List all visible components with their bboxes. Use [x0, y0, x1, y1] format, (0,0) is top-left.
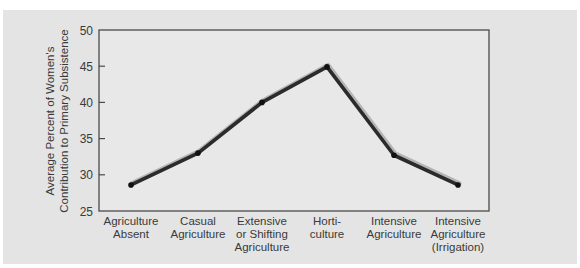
y-tick-label: 40 [80, 96, 94, 110]
x-category-label: Agriculture [367, 228, 422, 240]
data-point [324, 64, 330, 70]
x-category-label: Intensive [435, 215, 481, 227]
data-point [195, 150, 201, 156]
x-category-label: Casual [180, 215, 216, 227]
y-tick-label: 50 [80, 24, 94, 38]
y-axis-title: Contribution to Primary Subsistence [58, 29, 70, 212]
x-category-label: Agriculture [171, 228, 226, 240]
data-point [391, 152, 397, 158]
x-category-label: (Irrigation) [432, 241, 485, 253]
x-category-label: Agriculture [431, 228, 486, 240]
x-category-label: Extensive [237, 215, 287, 227]
x-category-label: Absent [113, 228, 150, 240]
data-point [455, 182, 461, 188]
x-category-label: Agriculture [104, 215, 159, 227]
y-tick-label: 30 [80, 168, 94, 182]
y-tick-label: 25 [80, 205, 94, 219]
x-category-label: Agriculture [235, 241, 290, 253]
plot-area [99, 30, 489, 211]
y-tick-label: 35 [80, 132, 94, 146]
data-point [128, 182, 134, 188]
line-chart: 253035404550Average Percent of Women'sCo… [0, 0, 580, 268]
x-category-label: Horti- [313, 215, 341, 227]
y-tick-label: 45 [80, 60, 94, 74]
x-category-label: culture [310, 228, 345, 240]
data-point [259, 100, 265, 106]
y-axis-title: Average Percent of Women's [44, 46, 56, 195]
x-category-label: Intensive [371, 215, 417, 227]
x-category-label: or Shifting [236, 228, 288, 240]
